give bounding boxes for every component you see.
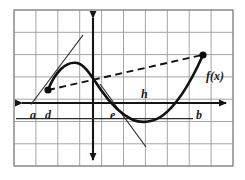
graph-canvas (0, 0, 245, 180)
label-f-of-x: f(x) (206, 70, 224, 82)
endpoint-dot-d (44, 86, 51, 93)
endpoint-dot-b (199, 51, 206, 58)
label-b: b (196, 109, 202, 121)
label-e: e (110, 109, 115, 121)
label-h: h (141, 88, 148, 100)
graph-figure: a d e h b f(x) (0, 0, 245, 180)
figure-background (0, 0, 245, 180)
label-a: a (30, 109, 36, 121)
label-d: d (45, 109, 51, 121)
